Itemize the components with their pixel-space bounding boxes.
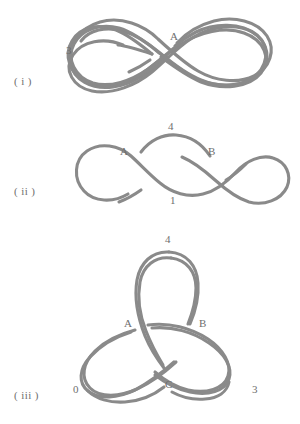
knot-diagram-figure-sheet: ( i ) A 3 ( ii ) A B 4 1	[0, 0, 300, 424]
figure-iii-caption: ( iii )	[14, 390, 39, 401]
figure-ii-left-lobe	[76, 146, 288, 204]
trefoil-top-right-branch	[169, 252, 198, 324]
figure-i-crossing-label-a: A	[170, 31, 178, 42]
trefoil-top-left-branch	[136, 252, 169, 368]
figure-ii-crossing-label-b: B	[208, 146, 215, 157]
figure-i-caption: ( i )	[14, 76, 32, 87]
figure-iii-crossing-label-a: A	[124, 318, 132, 329]
figure-iii-region-label-0: 0	[73, 384, 79, 395]
figure-ii-strands	[75, 135, 295, 209]
figure-ii-knot-diagram	[0, 110, 300, 220]
figure-iii-region-label-4: 4	[165, 234, 171, 245]
figure-ii-crossing-label-a: A	[120, 146, 128, 157]
figure-i-region-label-3: 3	[66, 45, 72, 56]
figure-iii-crossing-label-b: B	[199, 318, 206, 329]
figure-ii-region-label-4: 4	[168, 121, 174, 132]
figure-iii-crossing-label-c: C	[165, 379, 172, 390]
trefoil-right-lobe	[148, 324, 229, 391]
trefoil-strands	[81, 252, 229, 402]
figure-ii-caption: ( ii )	[14, 186, 35, 197]
figure-ii-region-label-1: 1	[170, 195, 176, 206]
figure-ii-middle-hump	[141, 135, 210, 156]
figure-iii-region-label-3: 3	[252, 384, 258, 395]
figure-i	[0, 0, 300, 110]
